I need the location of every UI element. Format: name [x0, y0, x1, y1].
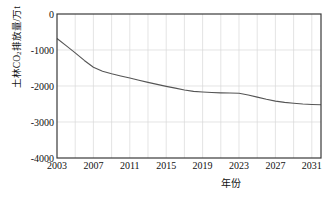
x-tick-label: 2027 [265, 160, 285, 171]
x-tick-label: 2007 [83, 160, 103, 171]
x-tick-label: 2015 [156, 160, 176, 171]
x-tick-label-group: 2003 2007 2011 2015 2019 2023 2027 2031 [0, 0, 331, 202]
x-axis-title-wrap: 年份 [0, 175, 331, 190]
x-tick-label: 2003 [47, 160, 67, 171]
x-tick-label: 2023 [229, 160, 249, 171]
x-tick-label: 2031 [302, 160, 322, 171]
x-axis-title: 年份 [91, 175, 241, 190]
x-tick-label: 2011 [120, 160, 140, 171]
chart-container: 土林CO2排放量/万t 0 -1000 -2000 -3000 -4000 [0, 0, 331, 202]
x-tick-label: 2019 [193, 160, 213, 171]
